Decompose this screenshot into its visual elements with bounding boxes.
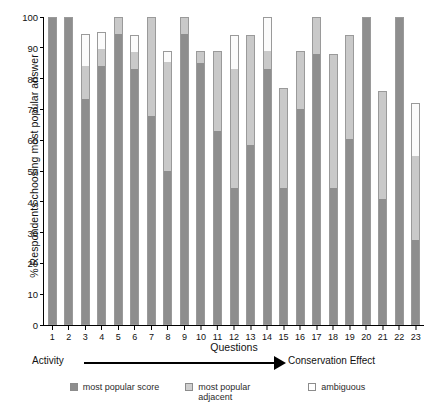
x-axis-tick-18: 18 [328, 326, 338, 342]
y-axis-tick-30: 30 [27, 227, 44, 238]
bar-segment-score [64, 17, 73, 325]
x-axis-tick-15: 15 [279, 326, 289, 342]
y-axis-tick-100: 100 [22, 12, 44, 23]
bar-segment-adjacent [329, 54, 338, 188]
legend-label: ambiguous [321, 382, 365, 392]
bar-question-2 [64, 17, 73, 325]
x-axis-tick-10: 10 [196, 326, 206, 342]
x-axis-tick-19: 19 [345, 326, 355, 342]
bar-segment-ambiguous [97, 32, 106, 49]
x-axis-tick-11: 11 [213, 326, 222, 342]
arrow-left-label: Activity [32, 355, 64, 366]
legend-label: most popular adjacent [198, 382, 282, 402]
arrow-right-label: Conservation Effect [288, 355, 375, 366]
bar-segment-score [130, 69, 139, 325]
bar-question-17 [312, 17, 321, 325]
bar-question-11 [213, 51, 222, 325]
bar-segment-score [213, 131, 222, 325]
bar-segment-score [362, 17, 371, 325]
gradient-arrow-row: Activity Conservation Effect [24, 355, 429, 369]
bar-segment-score [263, 69, 272, 325]
x-axis-tick-7: 7 [149, 326, 154, 342]
bar-segment-score [345, 139, 354, 325]
y-axis-tick-90: 90 [27, 42, 44, 53]
bar-segment-adjacent [296, 51, 305, 110]
y-axis-tick-10: 10 [27, 289, 44, 300]
x-axis-tick-22: 22 [394, 326, 404, 342]
legend-item-score: most popular score [70, 382, 160, 402]
bar-segment-score [196, 63, 205, 325]
y-axis-tick-40: 40 [27, 196, 44, 207]
bar-segment-score [147, 116, 156, 325]
bar-segment-adjacent [196, 51, 205, 63]
bar-question-7 [147, 17, 156, 325]
bar-segment-score [246, 145, 255, 325]
legend-item-adjacent: most popular adjacent [185, 382, 282, 402]
x-axis-title: Questions [44, 341, 424, 353]
bar-question-12 [230, 35, 239, 325]
legend-swatch-score-icon [70, 383, 78, 391]
arrow-head-icon [274, 356, 286, 370]
bar-question-6 [130, 35, 139, 325]
x-axis-tick-9: 9 [182, 326, 187, 342]
bar-segment-score [48, 17, 57, 325]
bar-segment-score [81, 99, 90, 325]
x-axis-tick-14: 14 [262, 326, 272, 342]
y-axis-tick-70: 70 [27, 104, 44, 115]
x-axis-tick-23: 23 [411, 326, 421, 342]
bar-question-23 [411, 103, 420, 325]
bar-question-21 [378, 91, 387, 325]
bar-question-1 [48, 17, 57, 325]
bar-segment-adjacent [246, 36, 255, 145]
bar-question-13 [246, 35, 255, 325]
bar-segment-ambiguous [81, 34, 90, 66]
legend-swatch-ambiguous-icon [308, 383, 316, 391]
bar-question-15 [279, 88, 288, 325]
chart-root: % Respondents choosing most popular answ… [0, 0, 435, 405]
bar-segment-score [230, 188, 239, 325]
x-axis-tick-20: 20 [361, 326, 371, 342]
bar-segment-score [279, 188, 288, 325]
bar-question-8 [163, 51, 172, 325]
bar-segment-adjacent [97, 49, 106, 66]
plot-area: 0102030405060708090100123456789101112131… [44, 17, 424, 325]
bar-question-9 [180, 17, 189, 325]
bar-segment-ambiguous [130, 36, 139, 53]
bar-question-5 [114, 17, 123, 325]
bar-segment-score [395, 17, 404, 325]
x-axis-tick-21: 21 [378, 326, 388, 342]
x-axis-tick-5: 5 [116, 326, 121, 342]
x-axis-tick-16: 16 [295, 326, 305, 342]
x-axis-tick-6: 6 [132, 326, 137, 342]
legend-label: most popular score [83, 382, 160, 392]
bar-question-10 [196, 51, 205, 325]
bar-segment-adjacent [312, 17, 321, 54]
legend-item-ambiguous: ambiguous [308, 382, 365, 402]
bar-segment-adjacent [213, 51, 222, 131]
x-axis-tick-13: 13 [246, 326, 256, 342]
bar-segment-adjacent [263, 51, 272, 69]
bar-segment-score [312, 54, 321, 325]
bar-segment-score [163, 171, 172, 325]
bar-segment-adjacent [378, 91, 387, 199]
y-axis-tick-50: 50 [27, 166, 44, 177]
bar-segment-score [114, 34, 123, 325]
x-axis-tick-4: 4 [99, 326, 104, 342]
bar-segment-ambiguous [230, 36, 239, 70]
bar-segment-score [97, 66, 106, 325]
bar-segment-adjacent [180, 17, 189, 34]
y-axis-tick-20: 20 [27, 258, 44, 269]
bar-question-3 [81, 34, 90, 325]
bar-segment-adjacent [345, 36, 354, 139]
bar-segment-ambiguous [411, 103, 420, 155]
bar-segment-adjacent [114, 17, 123, 34]
bar-segment-adjacent [130, 52, 139, 69]
bar-segment-ambiguous [163, 51, 172, 62]
y-axis-tick-80: 80 [27, 73, 44, 84]
bar-segment-score [411, 240, 420, 325]
x-axis-tick-1: 1 [50, 326, 55, 342]
x-axis-tick-3: 3 [83, 326, 88, 342]
x-axis-tick-8: 8 [165, 326, 170, 342]
y-axis-tick-60: 60 [27, 135, 44, 146]
bar-question-18 [329, 54, 338, 325]
